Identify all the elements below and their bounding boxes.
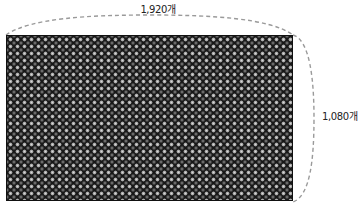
- height-dashed-arc: [293, 35, 314, 202]
- pixel-diagram: 1,920개 1,080개: [0, 0, 359, 215]
- width-dashed-arc: [6, 15, 293, 35]
- height-pixel-count-label: 1,080개: [322, 108, 357, 123]
- pixel-grid-panel: [6, 35, 293, 201]
- width-pixel-count-label: 1,920개: [128, 1, 188, 16]
